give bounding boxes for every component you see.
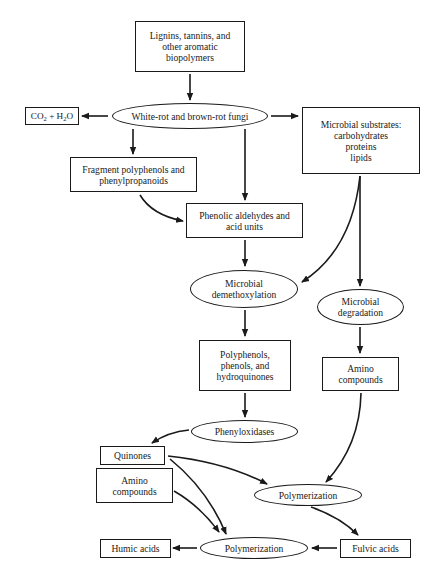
node-lignins: Lignins, tannins, and other aromatic bio… (135, 21, 245, 72)
node-amino-left-line-2: compounds (112, 486, 156, 497)
node-demethoxylation-line-2: demethoxylation (212, 289, 276, 300)
node-phenolic-aldehydes: Phenolic aldehydes and acid units (186, 203, 303, 238)
node-polyphenols: Polyphenols, phenols, and hydroquinones (199, 340, 291, 391)
node-substrates-line-1: Microbial substrates: (321, 119, 402, 130)
node-phenolic-line-1: Phenolic aldehydes and (199, 210, 290, 221)
node-polymerization-lower-label: Polymerization (225, 543, 284, 554)
arrow-amino-to-polymerization-upper (326, 393, 361, 482)
node-substrates-line-4: lipids (350, 152, 371, 163)
node-fulvic-acids: Fulvic acids (340, 539, 411, 558)
node-phenyloxidases: Phenyloxidases (191, 420, 298, 443)
node-microbial-substrates: Microbial substrates: carbohydrates prot… (302, 107, 420, 174)
arrow-quinones-to-polymerization-lower (170, 459, 226, 534)
arrow-amino-left-to-polymerization-lower (174, 491, 219, 532)
node-fragment-polyphenols: Fragment polyphenols and phenylpropanoid… (70, 157, 197, 192)
node-lignins-line-2: other aromatic (162, 41, 218, 52)
node-fungi-label: White-rot and brown-rot fungi (132, 111, 249, 122)
node-substrates-line-2: carbohydrates (334, 130, 388, 141)
node-amino-right-line-2: compounds (338, 374, 382, 385)
node-lignins-line-3: biopolymers (166, 52, 214, 63)
node-quinones: Quinones (100, 446, 165, 465)
node-quinones-label: Quinones (114, 450, 151, 461)
arrow-substrates-to-demethoxylation (302, 176, 360, 282)
arrow-fragment-to-phenolic (140, 195, 183, 221)
node-lignins-line-1: Lignins, tannins, and (150, 30, 230, 41)
node-amino-right-line-1: Amino (347, 363, 374, 374)
node-amino-left-line-1: Amino (121, 475, 148, 486)
node-degradation-line-1: Microbial (342, 296, 380, 307)
arrow-polymerization-upper-to-fulvic (311, 507, 358, 535)
node-fragment-line-2: phenylpropanoids (99, 175, 168, 186)
node-phenyloxidases-label: Phenyloxidases (215, 426, 275, 437)
node-co2-h2o-label: CO2 + H2O (31, 111, 73, 122)
node-degradation-line-2: degradation (338, 307, 383, 318)
node-amino-compounds-right: Amino compounds (322, 357, 399, 391)
node-demethoxylation: Microbial demethoxylation (190, 270, 298, 308)
node-substrates-line-3: proteins (346, 141, 377, 152)
node-polyphenols-line-1: Polyphenols, (220, 349, 270, 360)
node-polymerization-upper: Polymerization (254, 484, 362, 506)
node-fragment-line-1: Fragment polyphenols and (82, 164, 184, 175)
node-polyphenols-line-3: hydroquinones (216, 371, 273, 382)
node-polymerization-lower: Polymerization (200, 537, 308, 559)
node-humic-acids-label: Humic acids (111, 543, 159, 554)
node-humic-acids: Humic acids (100, 539, 171, 558)
node-co2-h2o: CO2 + H2O (25, 107, 79, 125)
node-phenolic-line-2: acid units (226, 221, 263, 232)
arrow-phenyloxidases-to-quinones (152, 430, 189, 443)
node-amino-compounds-left: Amino compounds (96, 468, 173, 503)
node-fungi: White-rot and brown-rot fungi (112, 103, 268, 129)
node-degradation: Microbial degradation (317, 289, 404, 325)
node-polyphenols-line-2: phenols, and (221, 360, 270, 371)
node-fulvic-acids-label: Fulvic acids (352, 543, 399, 554)
node-polymerization-upper-label: Polymerization (279, 490, 338, 501)
node-demethoxylation-line-1: Microbial (225, 278, 263, 289)
